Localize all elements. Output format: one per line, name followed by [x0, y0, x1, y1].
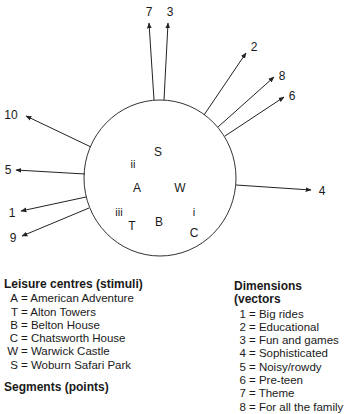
vector-4: [236, 185, 311, 190]
vector-label-5: 5: [5, 163, 12, 177]
legend-item: 2= Educational: [234, 321, 349, 334]
legend-item: S= Woburn Safari Park: [4, 359, 143, 372]
legend-dimensions: Dimensions (vectors 1= Big rides 2= Educ…: [234, 280, 349, 414]
vector-label-2: 2: [251, 40, 258, 54]
vector-6: [225, 97, 284, 136]
legend-item: 8= For all the family: [234, 401, 349, 414]
vector-10: [26, 116, 91, 147]
vector-label-10: 10: [4, 108, 18, 122]
vector-label-4: 4: [319, 184, 326, 198]
vector-1: [21, 197, 86, 211]
vector-label-8: 8: [279, 69, 286, 83]
vector-label-9: 9: [10, 231, 17, 245]
map-points: SAWTBCiiiiii: [115, 145, 198, 240]
legend-stimuli: Leisure centres (stimuli) A= American Ad…: [4, 278, 143, 372]
segment-point-ii: ii: [131, 158, 136, 170]
legend-item: 4= Sophisticated: [234, 347, 349, 360]
vector-label-1: 1: [9, 206, 16, 220]
vector-label-6: 6: [289, 89, 296, 103]
stimulus-point-A: A: [133, 181, 141, 195]
legend-item: 5= Noisy/rowdy: [234, 361, 349, 374]
legend-item: A= American Adventure: [4, 292, 143, 305]
vector-5: [16, 170, 85, 174]
vector-3: [164, 23, 168, 100]
legend-item: W= Warwick Castle: [4, 345, 143, 358]
legend-item: 1= Big rides: [234, 308, 349, 321]
legend-item: 7= Theme: [234, 387, 349, 400]
legend-item: T= Alton Towers: [4, 306, 143, 319]
vector-9: [22, 208, 89, 236]
legend-item: B= Belton House: [4, 319, 143, 332]
legend-segments-title: Segments (points): [4, 381, 109, 394]
map-circle: [84, 100, 236, 256]
legend-item: 3= Fun and games: [234, 334, 349, 347]
vector-2: [204, 53, 246, 115]
stimulus-point-C: C: [190, 226, 199, 240]
stimulus-point-T: T: [128, 219, 136, 233]
segment-point-iii: iii: [115, 206, 122, 218]
legend-item: C= Chatsworth House: [4, 332, 143, 345]
legend-dimensions-title: Dimensions (vectors: [234, 280, 349, 307]
vector-7: [149, 23, 154, 100]
legend-item: 6= Pre-teen: [234, 374, 349, 387]
segment-point-i: i: [193, 206, 195, 218]
legend-stimuli-title: Leisure centres (stimuli): [4, 278, 143, 291]
vector-8: [218, 77, 274, 127]
legend-segments: Segments (points): [4, 381, 109, 395]
stimulus-point-S: S: [154, 145, 162, 159]
dimension-vectors: 73286105194: [4, 5, 325, 245]
perceptual-map: 73286105194 SAWTBCiiiiii: [0, 0, 349, 280]
vector-label-7: 7: [146, 5, 153, 19]
stimulus-point-B: B: [155, 215, 163, 229]
vector-label-3: 3: [167, 5, 174, 19]
stimulus-point-W: W: [174, 181, 186, 195]
